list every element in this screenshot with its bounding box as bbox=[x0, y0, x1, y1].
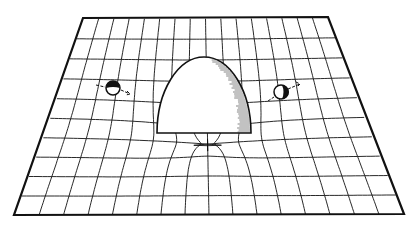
sun-dome bbox=[157, 57, 251, 133]
grid-line bbox=[297, 18, 354, 215]
grid-line bbox=[88, 19, 129, 216]
grid-line bbox=[267, 18, 306, 215]
planet-right-icon bbox=[268, 82, 300, 101]
sun-outline bbox=[157, 57, 251, 133]
grid-line bbox=[112, 19, 144, 216]
planet-left-icon bbox=[96, 81, 130, 95]
grid-line bbox=[251, 19, 281, 216]
spacetime-diagram bbox=[0, 0, 417, 229]
